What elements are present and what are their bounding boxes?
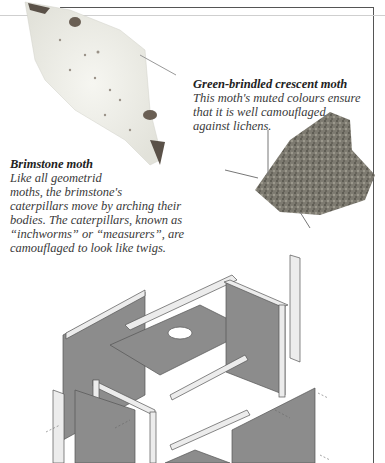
green-brindled-caption: Green-brindled crescent moth This moth's… bbox=[193, 77, 373, 133]
brimstone-line: “inchworms” or “measurers”, are bbox=[10, 227, 210, 241]
brimstone-line: bodies. The caterpillars, known as bbox=[10, 213, 210, 227]
green-brindled-line: that it is well camouflaged bbox=[193, 105, 373, 119]
brimstone-caption: Brimstone moth Like all geometrid moths,… bbox=[10, 157, 210, 255]
brimstone-line: Like all geometrid bbox=[10, 171, 210, 185]
green-brindled-line: against lichens. bbox=[193, 119, 373, 133]
brimstone-line: caterpillars move by arching their bbox=[10, 199, 210, 213]
brimstone-line: moths, the brimstone's bbox=[10, 185, 210, 199]
green-brindled-title: Green-brindled crescent moth bbox=[193, 77, 373, 91]
brimstone-line: camouflaged to look like twigs. bbox=[10, 241, 210, 255]
brimstone-title: Brimstone moth bbox=[10, 157, 210, 171]
green-brindled-line: This moth's muted colours ensure bbox=[193, 91, 373, 105]
